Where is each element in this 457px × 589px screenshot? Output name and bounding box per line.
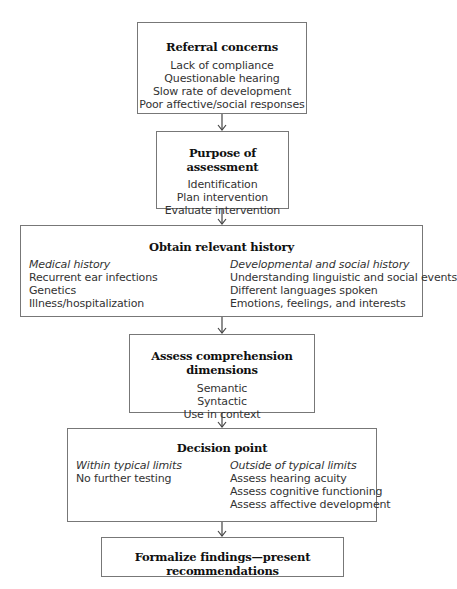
- purpose-item: Plan intervention: [157, 191, 288, 204]
- referral-item: Questionable hearing: [138, 72, 306, 85]
- arrowhead-icon: [218, 125, 226, 130]
- developmental-history-item: Understanding linguistic and social even…: [230, 271, 457, 284]
- outside-typical-limits-heading: Outside of typical limits: [230, 459, 391, 472]
- arrowhead-icon: [218, 219, 226, 224]
- medical-history-item: Illness/hospitalization: [29, 297, 158, 310]
- formalize-findings-box: Formalize findings—present recommendatio…: [101, 537, 344, 577]
- assess-comprehension-title: Assess comprehension dimensions: [130, 349, 314, 377]
- referral-concerns-box: Referral concerns Lack of compliance Que…: [137, 22, 307, 114]
- arrow-history-to-assess: [218, 317, 226, 333]
- outside-limits-item: Assess cognitive functioning: [230, 485, 391, 498]
- decision-point-box: Decision point Within typical limits No …: [67, 428, 377, 522]
- purpose-of-assessment-title: Purpose of assessment: [157, 146, 288, 174]
- formalize-findings-title: Formalize findings—present recommendatio…: [102, 550, 343, 578]
- medical-history-item: Recurrent ear infections: [29, 271, 158, 284]
- developmental-history-item: Different languages spoken: [230, 284, 457, 297]
- obtain-history-box: Obtain relevant history Medical history …: [20, 225, 423, 317]
- arrow-decision-to-formalize: [218, 522, 226, 536]
- within-typical-limits-heading: Within typical limits: [76, 459, 182, 472]
- purpose-item: Identification: [157, 178, 288, 191]
- assess-comprehension-box: Assess comprehension dimensions Semantic…: [129, 334, 315, 413]
- developmental-history-item: Emotions, feelings, and interests: [230, 297, 457, 310]
- outside-limits-item: Assess affective development: [230, 498, 391, 511]
- within-limits-item: No further testing: [76, 472, 182, 485]
- referral-item: Poor affective/social responses: [138, 98, 306, 111]
- medical-history-item: Genetics: [29, 284, 158, 297]
- medical-history-column: Medical history Recurrent ear infections…: [29, 258, 158, 310]
- within-typical-limits-column: Within typical limits No further testing: [76, 459, 182, 485]
- arrowhead-icon: [218, 531, 226, 536]
- comprehension-dimension: Use in context: [130, 408, 314, 421]
- decision-point-title: Decision point: [68, 441, 376, 455]
- referral-item: Slow rate of development: [138, 85, 306, 98]
- arrowhead-icon: [218, 328, 226, 333]
- purpose-item: Evaluate intervention: [157, 204, 288, 217]
- arrow-referral-to-purpose: [218, 114, 226, 130]
- purpose-of-assessment-box: Purpose of assessment Identification Pla…: [156, 131, 289, 209]
- comprehension-dimension: Semantic: [130, 382, 314, 395]
- outside-limits-item: Assess hearing acuity: [230, 472, 391, 485]
- developmental-social-history-column: Developmental and social history Underst…: [230, 258, 457, 310]
- arrowhead-icon: [218, 422, 226, 427]
- medical-history-heading: Medical history: [29, 258, 158, 271]
- referral-item: Lack of compliance: [138, 59, 306, 72]
- developmental-history-heading: Developmental and social history: [230, 258, 457, 271]
- referral-concerns-title: Referral concerns: [138, 40, 306, 54]
- comprehension-dimension: Syntactic: [130, 395, 314, 408]
- outside-typical-limits-column: Outside of typical limits Assess hearing…: [230, 459, 391, 511]
- obtain-history-title: Obtain relevant history: [21, 240, 422, 254]
